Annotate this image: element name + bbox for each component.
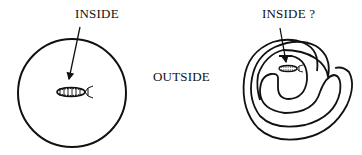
right-panel bbox=[244, 28, 353, 140]
spiral-curve bbox=[251, 42, 340, 127]
insect-icon-right bbox=[279, 65, 303, 72]
insect-icon-left bbox=[57, 86, 93, 98]
diagram-canvas bbox=[0, 0, 362, 155]
left-panel bbox=[18, 27, 126, 147]
arrow-to-insect-left bbox=[69, 27, 80, 79]
